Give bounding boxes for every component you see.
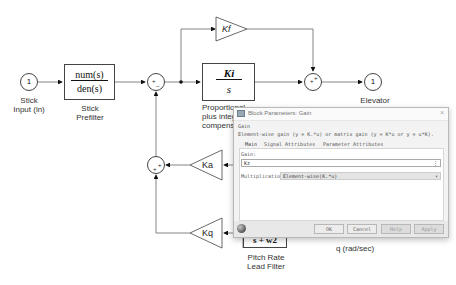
q-signal-label: q (rad/sec): [330, 244, 380, 253]
outport-label-line1: Elevator: [345, 96, 405, 105]
gain-value: Kz: [244, 160, 250, 166]
simulink-block-icon: [237, 110, 245, 117]
sum-block-1[interactable]: + –: [147, 73, 165, 91]
prefilter-label-line1: Stick: [62, 104, 118, 113]
block-description: Element-wise gain (y = K.*u) or matrix g…: [238, 131, 434, 137]
tab-signal-attributes[interactable]: Signal Attributes: [264, 141, 315, 147]
kq-gain-block[interactable]: Kq: [202, 228, 213, 238]
multiplication-value: Element-wise(K.*u): [283, 173, 337, 179]
sum3-sign-right: +: [158, 162, 162, 168]
gain-label: Gain:: [241, 151, 256, 157]
gain-input[interactable]: Kz ⋮: [241, 159, 441, 167]
sum-block-2[interactable]: + +: [304, 73, 322, 91]
help-button[interactable]: Help: [381, 224, 411, 234]
block-type-label: Gain: [238, 123, 250, 129]
pi-numerator: Ki: [216, 67, 242, 80]
ka-gain-block[interactable]: Ka: [202, 160, 213, 170]
apply-button[interactable]: Apply: [414, 224, 444, 234]
prefilter-numerator: num(s): [71, 69, 108, 81]
ok-button[interactable]: OK: [314, 224, 344, 234]
pi-denominator: s: [216, 83, 242, 95]
prefilter-label-line2: Prefilter: [62, 113, 118, 122]
tab-main[interactable]: Main: [245, 141, 257, 147]
dialog-titlebar[interactable]: Block Parameters: Gain ×: [234, 108, 448, 121]
stick-prefilter-block[interactable]: num(s) den(s): [64, 64, 115, 100]
pi-compensator-block[interactable]: Ki s: [202, 63, 255, 101]
inport-label-line2: Input (in): [5, 105, 53, 114]
sum3-sign-bottom: +: [153, 166, 157, 172]
sum2-sign-top: +: [314, 75, 318, 81]
block-parameters-dialog[interactable]: Block Parameters: Gain × Gain Element-wi…: [233, 107, 449, 238]
close-icon[interactable]: ×: [440, 109, 444, 116]
dialog-footer: OK Cancel Help Apply: [234, 221, 448, 237]
inport-label-line1: Stick: [5, 96, 53, 105]
prefilter-label: Stick Prefilter: [62, 104, 118, 122]
inport-label: Stick Input (in): [5, 96, 53, 114]
more-options-icon[interactable]: ⋮: [433, 160, 438, 166]
outport-elevator-command[interactable]: 1: [364, 73, 382, 91]
lead-filter-label-line1: Pitch Rate: [240, 253, 292, 262]
main-tab-panel: Gain: Kz ⋮ Multiplication: Element-wise(…: [239, 148, 444, 221]
dialog-title: Block Parameters: Gain: [248, 110, 311, 116]
cancel-button[interactable]: Cancel: [347, 224, 377, 234]
prefilter-denominator: den(s): [65, 83, 114, 94]
multiplication-dropdown[interactable]: Element-wise(K.*u) ▾: [280, 172, 441, 180]
help-info-icon[interactable]: [237, 224, 246, 233]
lead-filter-label-line2: Lead Filter: [240, 262, 292, 271]
chevron-down-icon: ▾: [435, 173, 438, 179]
inport-stick-input[interactable]: 1: [20, 73, 38, 91]
sum1-sign: +: [152, 78, 156, 84]
sum1-sign-minus: –: [156, 83, 159, 89]
lead-filter-label: Pitch Rate Lead Filter: [240, 253, 292, 271]
sum2-sign: +: [310, 78, 314, 84]
kf-gain-block[interactable]: Kf: [222, 24, 231, 34]
tab-parameter-attributes[interactable]: Parameter Attributes: [323, 141, 383, 147]
sum-block-3[interactable]: + +: [147, 156, 165, 174]
